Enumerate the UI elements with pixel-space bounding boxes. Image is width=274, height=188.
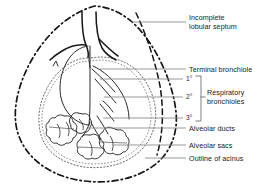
- figure-canvas: Incomplete lobular septum Terminal bronc…: [0, 0, 274, 188]
- label-respiratory-bronchioles: Respiratory bronchioles: [207, 88, 274, 106]
- respiratory-bronchioles-bracket: [196, 76, 205, 121]
- label-incomplete-lobular-septum-line1: Incomplete: [189, 13, 225, 22]
- label-respiratory-bronchioles-line2: bronchioles: [207, 97, 244, 106]
- label-incomplete-lobular-septum-line2: lobular septum: [189, 22, 237, 31]
- alveolar-sac-cluster: [46, 113, 129, 159]
- label-alveolar-ducts: Alveolar ducts: [189, 124, 235, 133]
- marker-first-order: 1°: [186, 75, 192, 82]
- bronchial-trunk: [50, 12, 118, 60]
- label-respiratory-bronchioles-line1: Respiratory: [207, 88, 244, 97]
- label-terminal-bronchiole: Terminal bronchiole: [189, 65, 252, 74]
- label-alveolar-sacs: Alveolar sacs: [189, 141, 232, 150]
- septum-caret-tick: [53, 61, 58, 66]
- marker-second-order: 2°: [186, 93, 192, 100]
- marker-third-order: 3°: [186, 114, 192, 121]
- label-outline-of-acinus: Outline of acinus: [189, 154, 243, 163]
- septum-interior-dash: [136, 13, 162, 155]
- incomplete-lobular-septum-outline: [15, 6, 176, 182]
- label-incomplete-lobular-septum: Incomplete lobular septum: [189, 13, 267, 31]
